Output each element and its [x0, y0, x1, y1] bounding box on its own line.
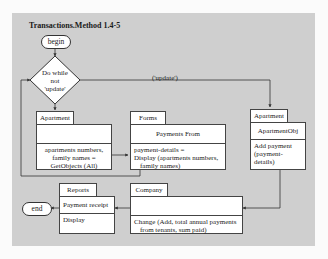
company-body: Change (Add, total annual payments from … [131, 215, 242, 236]
reports-body: Display [60, 213, 114, 226]
end-terminal: end [22, 202, 52, 216]
decision-line-3: 'update' [33, 85, 77, 93]
reports-body-line-1: Display [63, 216, 111, 224]
decision-line-1: Do while [33, 69, 77, 77]
reports-tab: Reports [59, 183, 97, 197]
company-tab: Company [130, 183, 168, 197]
apartment-obj-body: Add payment (payment-details) [251, 139, 305, 168]
reports-box: Payment receipt Display [59, 196, 115, 234]
diagram-title: Transactions.Method 1.4-5 [29, 21, 120, 30]
company-header [131, 197, 242, 215]
reports-header: Payment receipt [60, 197, 114, 213]
forms-tab: Forms [130, 111, 166, 125]
update-branch-label: ('update') [152, 74, 178, 82]
apartment-obj-tab: Apartment [250, 109, 288, 123]
forms-body-line-3: family names) [134, 162, 222, 170]
apartment-body: apartments numbers, family names = GetOb… [37, 143, 111, 172]
decision-line-2: not [33, 77, 77, 85]
forms-body-line-2: Display (apartments numbers, [134, 154, 222, 162]
company-body-line-1: Change (Add, total annual payments [134, 218, 239, 226]
forms-box: Payments From payment-details = Display … [130, 124, 226, 170]
apartment-obj-body-line-1: Add payment [254, 142, 302, 150]
decision-node: Do while not 'update' [33, 69, 77, 93]
apartment-tab: Apartment [36, 111, 74, 125]
apartment-obj-body-line-2: (payment-details) [254, 150, 302, 166]
company-box: Change (Add, total annual payments from … [130, 196, 243, 234]
apartment-body-line-3: GetObjects (All) [40, 162, 108, 170]
forms-body-line-1: payment-details = [134, 146, 222, 154]
apartment-obj-header: ApartmentObj [251, 123, 305, 139]
apartment-body-line-1: apartments numbers, [40, 146, 108, 154]
apartment-body-line-2: family names = [40, 154, 108, 162]
apartment-header [37, 125, 111, 143]
begin-terminal: begin [41, 35, 71, 49]
forms-body: payment-details = Display (apartments nu… [131, 143, 225, 172]
apartment-obj-box: ApartmentObj Add payment (payment-detail… [250, 122, 306, 170]
forms-header: Payments From [131, 125, 225, 143]
apartment-box: apartments numbers, family names = GetOb… [36, 124, 112, 170]
company-body-line-2: from tenants, sum paid) [134, 226, 239, 234]
